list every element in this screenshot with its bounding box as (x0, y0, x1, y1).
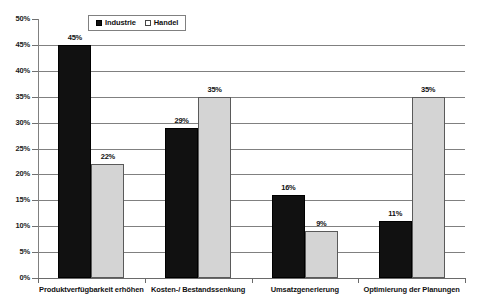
y-axis-tick (32, 97, 38, 98)
grid-line (38, 97, 465, 98)
x-axis-tick (38, 278, 39, 283)
grid-line (38, 123, 465, 124)
x-axis-tick (465, 278, 466, 283)
y-axis-label: 5% (0, 248, 30, 256)
bar-value-label: 35% (198, 86, 231, 94)
plot-area: 45%22%29%35%16%9%11%35% (38, 19, 465, 278)
x-axis-category-label: Kosten-/ Bestandssenkung (145, 286, 252, 294)
bar-industrie-0 (58, 45, 91, 278)
bar-value-label: 35% (412, 86, 445, 94)
y-axis-label: 10% (0, 222, 30, 230)
bar-handel-0 (91, 164, 124, 278)
x-axis-category-label: Umsatzgenerierung (252, 286, 359, 294)
y-axis-tick (32, 71, 38, 72)
grid-line (38, 45, 465, 46)
x-axis-tick (358, 278, 359, 283)
legend-swatch-icon (96, 20, 102, 26)
bar-industrie-1 (165, 128, 198, 278)
y-axis-tick (32, 200, 38, 201)
y-axis-tick (32, 174, 38, 175)
y-axis-label: 40% (0, 67, 30, 75)
bar-value-label: 16% (272, 184, 305, 192)
y-axis-tick (32, 123, 38, 124)
x-axis-category-label: Produktverfügbarkeit erhöhen (38, 286, 145, 294)
y-axis-label: 30% (0, 119, 30, 127)
legend-entry-industrie: Industrie (96, 19, 136, 27)
bar-value-label: 9% (305, 220, 338, 228)
bar-handel-2 (305, 231, 338, 278)
bar-value-label: 45% (58, 34, 91, 42)
bar-value-label: 11% (379, 210, 412, 218)
legend-label: Handel (154, 19, 178, 27)
bar-industrie-2 (272, 195, 305, 278)
legend-entry-handel: Handel (145, 19, 178, 27)
bar-handel-3 (412, 97, 445, 278)
x-axis-tick (252, 278, 253, 283)
grid-line (38, 149, 465, 150)
y-axis-label: 25% (0, 145, 30, 153)
y-axis-label: 20% (0, 170, 30, 178)
legend-label: Industrie (105, 19, 136, 27)
bar-value-label: 29% (165, 117, 198, 125)
chart-legend: IndustrieHandel (88, 15, 186, 31)
y-axis-label: 50% (0, 15, 30, 23)
y-axis-tick (32, 149, 38, 150)
y-axis-tick (32, 226, 38, 227)
bar-value-label: 22% (91, 153, 124, 161)
bar-handel-1 (198, 97, 231, 278)
y-axis-label: 45% (0, 41, 30, 49)
y-axis-tick (32, 252, 38, 253)
legend-swatch-icon (145, 20, 151, 26)
bar-industrie-3 (379, 221, 412, 278)
x-axis-tick (145, 278, 146, 283)
y-axis-tick (32, 19, 38, 20)
y-axis-label: 0% (0, 274, 30, 282)
bar-chart: 45%22%29%35%16%9%11%35% IndustrieHandel … (0, 0, 485, 306)
y-axis-tick (32, 45, 38, 46)
grid-line (38, 71, 465, 72)
y-axis-label: 35% (0, 93, 30, 101)
x-axis-category-label: Optimierung der Planungen (358, 286, 465, 294)
y-axis-label: 15% (0, 196, 30, 204)
